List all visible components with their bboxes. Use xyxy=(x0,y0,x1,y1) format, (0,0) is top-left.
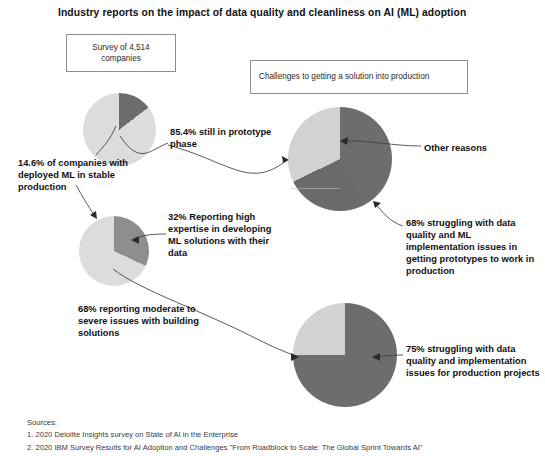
arrow-head-prototype-struggle xyxy=(373,201,381,208)
leader-line-other-reasons xyxy=(343,141,421,146)
leader-line-prototype-struggle xyxy=(375,203,403,226)
arrow-head-production-struggle xyxy=(372,353,380,361)
label-moderate-issues: 68% reporting moderate to severe issues … xyxy=(78,304,218,340)
infographic-canvas: Industry reports on the impact of data q… xyxy=(0,0,545,456)
label-production-struggle: 75% struggling with data quality and imp… xyxy=(406,344,542,380)
arrow-head-high-expertise xyxy=(131,236,139,244)
arrow-head-prototype-to-pie2 xyxy=(282,156,289,163)
sources-block: Sources: 1. 2020 Deloitte Insights surve… xyxy=(27,417,527,454)
source-item-1: 1. 2020 Deloitte Insights survey on Stat… xyxy=(27,429,527,441)
sources-heading: Sources: xyxy=(27,417,527,429)
label-high-expertise: 32% Reporting high expertise in developi… xyxy=(168,212,286,260)
source-item-2: 2. 2020 IBM Survey Results for AI Adopti… xyxy=(27,442,527,454)
leader-line-prototype xyxy=(120,136,168,154)
arrow-head-moderate-issues xyxy=(291,353,299,361)
label-prototype-struggle: 68% struggling with data quality and ML … xyxy=(406,218,540,277)
arrow-head-other-reasons xyxy=(340,137,348,145)
leader-line-deployed xyxy=(96,126,116,155)
label-deployed-ml: 14.6% of companies with deployed ML in s… xyxy=(18,158,148,194)
label-other-reasons: Other reasons xyxy=(424,143,524,155)
arrow-head-deployed-to-pie3 xyxy=(90,211,97,219)
label-prototype-phase: 85.4% still in prototype phase xyxy=(170,127,280,151)
